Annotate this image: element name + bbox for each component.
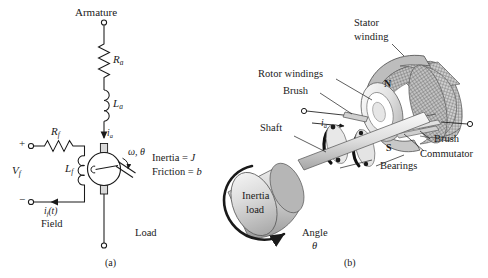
label-ia: ia [107, 128, 113, 140]
leader-brush-left [320, 93, 352, 114]
pole-s-label: S [386, 143, 392, 154]
polarity-minus: − [19, 194, 25, 206]
angle-label-line1: Angle [302, 227, 328, 238]
field-plus-terminal [28, 143, 33, 148]
label-Vf: Vf [12, 165, 21, 178]
caption-a: (a) [105, 258, 116, 269]
inductor-La [104, 90, 109, 121]
resistor-Rf [41, 141, 79, 152]
stator-winding-label-line1: Stator [354, 17, 379, 28]
armature-label: Armature [75, 7, 117, 19]
bearing-ball-2 [336, 158, 341, 163]
inductor-Lf [78, 156, 84, 185]
label-inertia: Inertia = J [152, 152, 195, 163]
armature-terminal [101, 20, 106, 25]
current-arrow-ia-motor [312, 123, 344, 126]
figure-vector [0, 0, 488, 278]
bearings-label: Bearings [380, 160, 417, 171]
brush-terminal-right [467, 121, 472, 126]
polarity-plus: + [19, 138, 25, 150]
commutator-label: Commutator [420, 148, 473, 159]
angle-label-line2: θ [312, 240, 317, 251]
inertia-load-label-line2: load [246, 204, 264, 215]
brush-left-label: Brush [283, 85, 308, 96]
label-Lf: Lf [65, 163, 73, 176]
label-if: if(t) [44, 206, 57, 218]
label-Ra: Ra [113, 54, 123, 67]
field-minus-terminal [28, 199, 33, 204]
shaft-label: Shaft [260, 122, 282, 133]
label-omega-theta: ω, θ [128, 147, 145, 158]
brush-right-label: Brush [434, 133, 459, 144]
label-ia-motor: ia [321, 118, 327, 130]
brush-bottom [100, 185, 107, 194]
label-Rf: Rf [51, 126, 60, 139]
pole-n-label: N [384, 79, 391, 90]
leader-stator-winding [392, 44, 404, 56]
resistor-Ra [99, 40, 110, 84]
bearing-ball-1 [331, 125, 336, 130]
field-label: Field [41, 218, 63, 229]
inertia-load-label-line1: Inertia [242, 190, 269, 201]
caption-b: (b) [344, 258, 356, 269]
load-label: Load [135, 227, 157, 238]
armature-bottom-terminal [101, 243, 106, 248]
brush-top [100, 144, 107, 153]
rotor-windings-label: Rotor windings [258, 68, 323, 79]
label-friction: Friction = b [152, 166, 202, 177]
label-La: La [113, 98, 123, 111]
current-arrow-if [51, 199, 59, 206]
brush-terminal-left [301, 108, 306, 113]
leader-shaft [294, 136, 326, 152]
stator-winding-label-line2: winding [354, 31, 388, 42]
motor-figure: Armature Ra La ia Rf Lf Vf + − if(t) Fie… [0, 0, 488, 278]
brush-left-assembly [301, 108, 368, 126]
